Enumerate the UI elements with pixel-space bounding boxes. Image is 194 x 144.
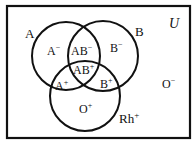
set-a-label: A bbox=[25, 26, 35, 41]
set-b-label: B bbox=[135, 24, 144, 39]
universe-rectangle bbox=[7, 6, 190, 138]
region-o-pos: O+ bbox=[79, 101, 93, 116]
set-rh-label: Rh+ bbox=[119, 110, 139, 126]
region-ab-neg: AB− bbox=[71, 43, 93, 58]
universe-label: U bbox=[169, 16, 180, 31]
region-a-neg: A− bbox=[47, 43, 61, 58]
blood-type-venn-diagram: U A B Rh+ A− AB− B− AB+ A+ B+ O+ O− bbox=[0, 0, 194, 144]
region-ab-pos: AB+ bbox=[73, 62, 95, 77]
region-b-neg: B− bbox=[110, 40, 123, 55]
region-b-pos: B+ bbox=[100, 76, 113, 91]
region-o-neg: O− bbox=[162, 76, 176, 91]
